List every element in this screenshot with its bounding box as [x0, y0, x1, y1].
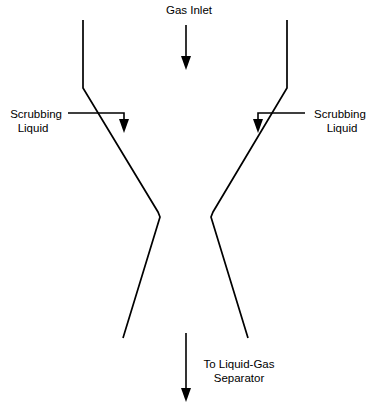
venturi-scrubber-diagram: Gas Inlet Scrubbing Liquid Scrubbing Liq…	[0, 0, 370, 407]
scrubbing-liquid-left-shaft	[68, 113, 124, 120]
scrubbing-liquid-right-label-line2: Liquid	[327, 122, 358, 134]
gas-inlet-arrow-head-icon	[181, 56, 191, 70]
gas-inlet-arrow	[181, 25, 191, 70]
diagram-canvas: Gas Inlet Scrubbing Liquid Scrubbing Liq…	[0, 0, 370, 407]
outlet-label-line2: Separator	[214, 372, 265, 384]
outlet-arrow	[181, 333, 191, 402]
scrubbing-liquid-right-arrow	[253, 113, 305, 133]
outlet-label-line1: To Liquid-Gas	[204, 358, 275, 370]
outlet-arrow-head-icon	[181, 388, 191, 402]
scrubbing-liquid-left-arrow	[68, 113, 129, 133]
scrubbing-liquid-right-shaft	[258, 113, 305, 120]
gas-inlet-label: Gas Inlet	[166, 4, 213, 16]
left-vessel-wall	[83, 20, 160, 338]
scrubbing-liquid-left-label-line2: Liquid	[18, 122, 49, 134]
scrubbing-liquid-left-label-line1: Scrubbing	[10, 108, 62, 120]
scrubbing-liquid-right-label-line1: Scrubbing	[314, 108, 366, 120]
scrubbing-liquid-left-arrow-head-icon	[119, 119, 129, 133]
right-vessel-wall	[211, 20, 287, 338]
